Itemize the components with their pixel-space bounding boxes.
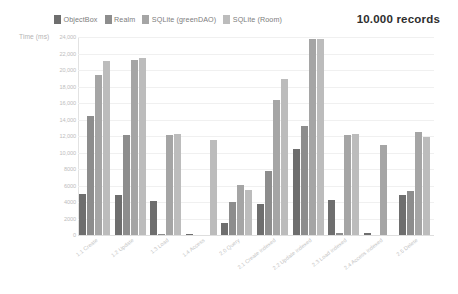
chart-title: 10.000 records	[357, 13, 440, 25]
bar[interactable]	[380, 145, 387, 235]
x-axis-tick-label: 2.2 Update indexed	[271, 237, 312, 271]
bar-group	[399, 37, 432, 235]
x-axis-tick-label: 2.5 Delete	[396, 237, 419, 257]
y-axis-tick-label: 14,000	[59, 117, 76, 123]
bar[interactable]	[210, 140, 217, 235]
bar[interactable]	[166, 135, 173, 235]
bar[interactable]	[123, 135, 130, 235]
x-axis-tick-label: 2.4 Access indexed	[342, 237, 383, 271]
legend-item-label: SQLite (Room)	[233, 16, 282, 23]
plot-area	[78, 37, 434, 235]
gridline	[78, 235, 434, 236]
bar[interactable]	[273, 100, 280, 235]
y-axis-tick-label: 20,000	[59, 67, 76, 73]
bar-group	[186, 37, 219, 235]
legend-swatch-icon	[54, 15, 61, 24]
bar[interactable]	[115, 195, 122, 235]
bar[interactable]	[328, 200, 335, 235]
y-axis-tick-label: 24,000	[59, 34, 76, 40]
y-axis-tick-label: 18,000	[59, 84, 76, 90]
bar[interactable]	[87, 116, 94, 235]
legend-swatch-icon	[223, 15, 230, 24]
chart-legend: ObjectBoxRealmSQLite (greenDAO)SQLite (R…	[54, 15, 282, 24]
legend-item-label: Realm	[114, 16, 135, 23]
bar-series-layer	[78, 37, 434, 235]
y-axis-tick-label: 0	[73, 232, 76, 238]
x-axis-tick-label: 1.1 Create	[75, 237, 99, 258]
bar[interactable]	[423, 137, 430, 235]
bar-group	[150, 37, 183, 235]
bar[interactable]	[281, 79, 288, 235]
bar[interactable]	[415, 132, 422, 235]
bar[interactable]	[131, 60, 138, 235]
legend-item[interactable]: ObjectBox	[54, 15, 98, 24]
y-axis-tick-label: 12,000	[59, 133, 76, 139]
bar[interactable]	[301, 126, 308, 235]
bar[interactable]	[293, 149, 300, 235]
bar[interactable]	[245, 190, 252, 235]
bar-group	[293, 37, 326, 235]
y-axis-tick-label: 6000	[64, 183, 76, 189]
bar-chart: ObjectBoxRealmSQLite (greenDAO)SQLite (R…	[0, 0, 458, 294]
bar[interactable]	[150, 201, 157, 235]
bar[interactable]	[309, 39, 316, 235]
y-axis-ticks: 24,00022,00020,00018,00016,00014,00012,0…	[52, 37, 76, 235]
bar[interactable]	[158, 234, 165, 235]
bar[interactable]	[344, 135, 351, 235]
bar[interactable]	[79, 194, 86, 235]
bar[interactable]	[186, 234, 193, 235]
bar-group	[328, 37, 361, 235]
bar[interactable]	[399, 195, 406, 235]
x-axis-tick-label: 2.3 Load indexed	[311, 237, 348, 268]
bar[interactable]	[174, 134, 181, 235]
bar[interactable]	[229, 202, 236, 235]
bar-group	[364, 37, 397, 235]
bar-group	[221, 37, 254, 235]
bar[interactable]	[221, 223, 228, 235]
bar[interactable]	[257, 204, 264, 235]
legend-item[interactable]: Realm	[105, 15, 136, 24]
x-axis-tick-label: 1.2 Update	[109, 237, 134, 258]
bar[interactable]	[237, 185, 244, 235]
legend-item[interactable]: SQLite (greenDAO)	[142, 15, 216, 24]
bar[interactable]	[352, 134, 359, 235]
x-axis-ticks: 1.1 Create1.2 Update1.3 Load1.4 Access2.…	[78, 237, 434, 293]
y-axis-tick-label: 8000	[64, 166, 76, 172]
y-axis-tick-label: 10,000	[59, 150, 76, 156]
bar[interactable]	[139, 58, 146, 235]
y-axis-tick-label: 16,000	[59, 100, 76, 106]
legend-swatch-icon	[105, 15, 112, 24]
bar[interactable]	[336, 233, 343, 235]
bar[interactable]	[317, 39, 324, 235]
y-axis-tick-label: 2000	[64, 216, 76, 222]
legend-item-label: SQLite (greenDAO)	[152, 16, 216, 23]
x-axis-tick-label: 1.3 Load	[149, 237, 170, 255]
bar[interactable]	[95, 75, 102, 235]
x-axis-tick-label: 1.4 Access	[181, 237, 206, 258]
legend-item-label: ObjectBox	[64, 16, 98, 23]
bar-group	[257, 37, 290, 235]
bar[interactable]	[407, 191, 414, 235]
bar[interactable]	[364, 233, 371, 235]
y-axis-tick-label: 4000	[64, 199, 76, 205]
bar-group	[115, 37, 148, 235]
y-axis-title: Time (ms)	[19, 33, 49, 40]
y-axis-tick-label: 22,000	[59, 51, 76, 57]
legend-item[interactable]: SQLite (Room)	[223, 15, 282, 24]
bar-group	[79, 37, 112, 235]
x-axis-tick-label: 2.0 Query	[218, 237, 241, 257]
bar[interactable]	[103, 61, 110, 235]
legend-swatch-icon	[142, 15, 149, 24]
bar[interactable]	[265, 171, 272, 235]
